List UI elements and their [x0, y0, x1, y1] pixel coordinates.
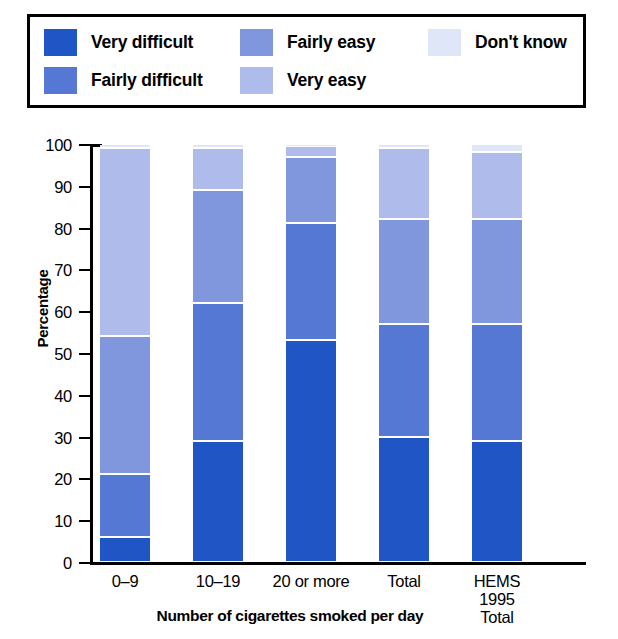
y-axis-tick-label: 90 — [12, 179, 72, 195]
bar-segment[interactable] — [193, 145, 243, 147]
y-axis-tick — [79, 437, 91, 439]
bar-segment[interactable] — [379, 438, 429, 561]
y-axis-tick-label: 20 — [12, 471, 72, 487]
bar-segment[interactable] — [193, 149, 243, 189]
bar-segment[interactable] — [472, 145, 522, 151]
bar-segment[interactable] — [193, 442, 243, 561]
bar-segment[interactable] — [286, 158, 336, 223]
x-axis-tick-label-line: HEMS — [442, 572, 552, 590]
y-axis-tick-label: 100 — [12, 137, 72, 153]
bar-segment[interactable] — [379, 145, 429, 147]
y-axis-tick-label: 70 — [12, 262, 72, 278]
y-axis-tick — [79, 353, 91, 355]
y-axis-tick-label: 80 — [12, 221, 72, 237]
y-axis-tick — [79, 562, 91, 564]
bar-segment[interactable] — [379, 325, 429, 436]
y-axis-tick-label: 0 — [12, 555, 72, 571]
bar-segment[interactable] — [472, 220, 522, 323]
bar-column[interactable] — [379, 145, 429, 563]
y-axis-tick — [79, 228, 91, 230]
y-axis-tick-label: 50 — [12, 346, 72, 362]
y-axis-tick — [79, 144, 91, 146]
y-axis-tick — [79, 520, 91, 522]
bar-segment[interactable] — [100, 149, 150, 335]
x-axis-tick-label-line: 1995 — [442, 590, 552, 608]
bar-column[interactable] — [193, 145, 243, 563]
bar-segment[interactable] — [472, 325, 522, 440]
bar-segment[interactable] — [379, 149, 429, 218]
bar-segment[interactable] — [100, 475, 150, 536]
y-axis-tick — [79, 269, 91, 271]
y-axis-tick-label: 60 — [12, 304, 72, 320]
chart-plot-area: Percentage 1009080706050403020100 0–910–… — [0, 0, 618, 639]
bar-segment[interactable] — [286, 147, 336, 155]
bar-segment[interactable] — [379, 220, 429, 323]
bar-segment[interactable] — [100, 538, 150, 561]
bar-segment[interactable] — [193, 191, 243, 302]
y-axis-tick — [79, 395, 91, 397]
y-axis-tick — [79, 311, 91, 313]
y-axis-tick-label: 30 — [12, 430, 72, 446]
bar-segment[interactable] — [286, 145, 336, 146]
bar-segment[interactable] — [286, 224, 336, 339]
y-axis-tick — [79, 478, 91, 480]
bar-segment[interactable] — [100, 145, 150, 147]
bar-segment[interactable] — [472, 153, 522, 218]
bar-column[interactable] — [472, 145, 522, 563]
y-axis-tick-label: 40 — [12, 388, 72, 404]
bar-segment[interactable] — [286, 341, 336, 561]
bar-segment[interactable] — [472, 442, 522, 561]
y-axis-tick — [79, 186, 91, 188]
bar-column[interactable] — [100, 145, 150, 563]
bar-column[interactable] — [286, 145, 336, 563]
bar-segment[interactable] — [100, 337, 150, 473]
bar-segment[interactable] — [193, 304, 243, 440]
y-axis-tick-label: 10 — [12, 513, 72, 529]
x-axis-title: Number of cigarettes smoked per day — [40, 607, 540, 625]
